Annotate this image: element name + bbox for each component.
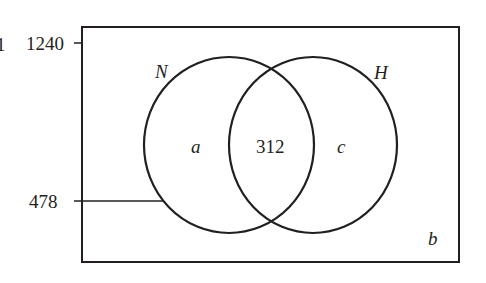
label-1240: 1240	[26, 33, 64, 54]
venn-diagram: 1 1240 478 N H a 312 c b	[0, 0, 486, 283]
edge-fragment: 1	[0, 34, 6, 55]
set-label-N: N	[154, 61, 169, 82]
intersection-value: 312	[256, 136, 285, 157]
region-a: a	[191, 136, 201, 157]
label-478: 478	[29, 191, 58, 212]
region-b: b	[428, 228, 438, 249]
set-label-H: H	[373, 62, 389, 83]
region-c: c	[337, 136, 346, 157]
